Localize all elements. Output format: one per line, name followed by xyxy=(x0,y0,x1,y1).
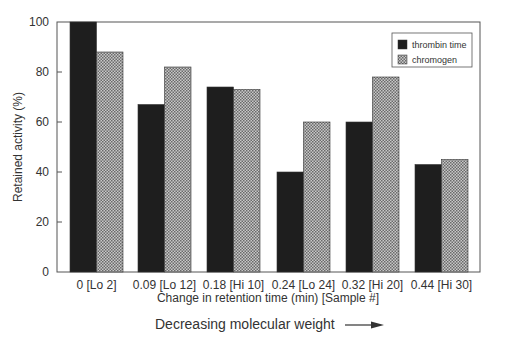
x-axis-title: Change in retention time (min) [Sample #… xyxy=(157,291,379,305)
annotation-text: Decreasing molecular weight xyxy=(155,316,335,332)
x-axis: 0 [Lo 2]0.09 [Lo 12]0.18 [Hi 10]0.24 [Lo… xyxy=(76,278,472,292)
bar-chromogen xyxy=(234,90,261,273)
x-tick-label: 0.09 [Lo 12] xyxy=(133,278,196,292)
x-tick-label: 0.32 [Hi 20] xyxy=(342,278,403,292)
bar-chromogen xyxy=(97,52,124,272)
legend-swatch xyxy=(398,55,407,64)
legend-label: chromogen xyxy=(412,55,457,65)
x-tick-label: 0.44 [Hi 30] xyxy=(411,278,472,292)
bar-chart: 020406080100 0 [Lo 2]0.09 [Lo 12]0.18 [H… xyxy=(0,0,507,348)
legend-label: thrombin time xyxy=(412,40,467,50)
x-tick-label: 0.18 [Hi 10] xyxy=(203,278,264,292)
bar-thrombin-time xyxy=(415,165,442,273)
y-axis-title: Retained activity (%) xyxy=(11,92,25,202)
y-tick-label: 80 xyxy=(36,65,50,79)
bar-chromogen xyxy=(304,122,331,272)
y-tick-label: 60 xyxy=(36,115,50,129)
y-tick-label: 0 xyxy=(42,265,49,279)
bar-thrombin-time xyxy=(207,87,234,272)
bar-thrombin-time xyxy=(70,22,97,272)
y-tick-label: 40 xyxy=(36,165,50,179)
legend-swatch xyxy=(398,40,407,49)
bar-chromogen xyxy=(165,67,192,272)
bar-chromogen xyxy=(442,160,469,273)
legend: thrombin timechromogen xyxy=(392,33,472,67)
y-tick-label: 20 xyxy=(36,215,50,229)
x-tick-label: 0.24 [Lo 24] xyxy=(272,278,335,292)
bar-thrombin-time xyxy=(138,105,165,273)
y-tick-label: 100 xyxy=(29,15,49,29)
molecular-weight-annotation: Decreasing molecular weight xyxy=(155,316,385,332)
bar-chromogen xyxy=(373,77,400,272)
bar-thrombin-time xyxy=(346,122,373,272)
x-tick-label: 0 [Lo 2] xyxy=(76,278,116,292)
bar-thrombin-time xyxy=(277,172,304,272)
right-arrow-icon xyxy=(345,320,385,330)
